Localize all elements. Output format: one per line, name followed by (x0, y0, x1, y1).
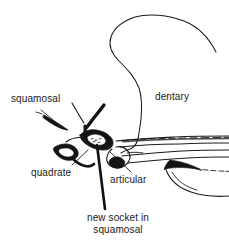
dentary-coronoid-outline (110, 15, 216, 139)
label-dentary: dentary (155, 91, 189, 103)
label-articular: articular (110, 174, 146, 186)
anatomy-diagram: squamosal dentary quadrate articular new… (0, 0, 229, 246)
squamosal-thin-ramus (72, 103, 84, 123)
label-new-socket-line-1: new socket in (87, 212, 149, 223)
lower-jaw-upper-edge (122, 150, 229, 156)
label-squamosal: squamosal (11, 93, 60, 105)
angular-inner-curve (172, 172, 197, 190)
diagram-canvas (0, 0, 229, 246)
squamosal-tip-line (36, 112, 42, 114)
angular-ventral-curve (166, 170, 229, 196)
squamosal-bone (43, 115, 68, 130)
quadrate-upper-strut (66, 138, 80, 143)
leader-new-socket (97, 145, 105, 209)
squamosal-thick-ramus (86, 105, 104, 128)
leader-squamosal (41, 110, 62, 128)
articular-retroarticular (127, 152, 143, 153)
label-quadrate: quadrate (31, 167, 71, 179)
label-new-socket-in-squamosal: new socket in squamosal (63, 212, 173, 236)
label-new-socket-line-2: squamosal (93, 224, 142, 235)
